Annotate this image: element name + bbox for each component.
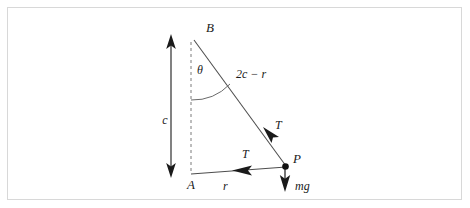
figure-frame: c θ B A P 2c − r r T T mg bbox=[7, 7, 462, 200]
label-point-a: A bbox=[186, 177, 195, 192]
string-segment-bp bbox=[194, 40, 286, 166]
force-weight: mg bbox=[280, 168, 310, 193]
force-diagram: c θ B A P 2c − r r T T mg bbox=[8, 8, 463, 201]
label-hypotenuse-length: 2c − r bbox=[236, 67, 266, 81]
force-tension-horizontal: T bbox=[232, 147, 252, 176]
angle-arc-theta bbox=[191, 84, 230, 100]
label-point-p: P bbox=[292, 151, 301, 166]
label-theta: θ bbox=[197, 63, 203, 77]
label-c: c bbox=[162, 113, 168, 127]
label-weight: mg bbox=[295, 179, 310, 193]
particle-dot-p bbox=[282, 163, 289, 170]
label-base-length: r bbox=[223, 179, 228, 193]
label-tension-upper: T bbox=[275, 118, 283, 132]
label-point-b: B bbox=[206, 20, 214, 35]
tension-horizontal-arrowhead bbox=[232, 166, 252, 176]
label-tension-lower: T bbox=[242, 147, 250, 161]
c-dimension-arrow: c bbox=[162, 34, 175, 178]
